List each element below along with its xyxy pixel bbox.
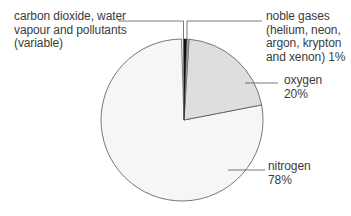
label-nitrogen: nitrogen 78%: [268, 160, 311, 187]
label-noble-line4: and xenon) 1%: [266, 51, 345, 65]
label-co2-line1: carbon dioxide, water: [14, 10, 127, 24]
label-noble-gases: noble gases (helium, neon, argon, krypto…: [266, 10, 345, 64]
label-co2: carbon dioxide, water vapour and polluta…: [14, 10, 127, 51]
label-noble-line2: (helium, neon,: [266, 24, 345, 38]
leader-co2: [118, 21, 184, 40]
label-noble-line1: noble gases: [266, 10, 345, 24]
label-co2-line2: vapour and pollutants: [14, 24, 127, 38]
label-oxygen-value: 20%: [284, 88, 322, 102]
label-nitrogen-value: 78%: [268, 174, 311, 188]
label-nitrogen-name: nitrogen: [268, 160, 311, 174]
label-oxygen: oxygen 20%: [284, 74, 322, 101]
label-co2-line3: (variable): [14, 37, 127, 51]
label-noble-line3: argon, krypton: [266, 37, 345, 51]
label-oxygen-name: oxygen: [284, 74, 322, 88]
leader-noble: [187, 21, 262, 40]
